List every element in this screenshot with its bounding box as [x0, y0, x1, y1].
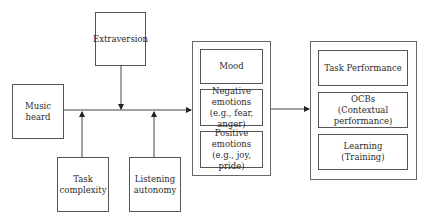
- music-heard-box: Music heard: [12, 84, 64, 139]
- task-performance-box: Task Performance: [318, 50, 408, 86]
- task-complexity-box: Task complexity: [57, 157, 109, 212]
- positive-emotions-label: Positive emotions (e.g., joy, pride): [203, 128, 260, 172]
- mood-label: Mood: [219, 61, 243, 72]
- learning-box: Learning (Training): [318, 134, 408, 170]
- negative-emotions-label: Negative emotions (e.g., fear, anger): [203, 86, 260, 130]
- music-heard-label: Music heard: [15, 101, 61, 123]
- negative-emotions-box: Negative emotions (e.g., fear, anger): [200, 89, 263, 126]
- task-performance-label: Task Performance: [324, 63, 401, 74]
- task-complexity-label: Task complexity: [60, 174, 107, 196]
- positive-emotions-box: Positive emotions (e.g., joy, pride): [200, 131, 263, 168]
- extraversion-box: Extraversion: [95, 12, 146, 66]
- listening-autonomy-label: Listening autonomy: [134, 174, 177, 196]
- mood-box: Mood: [200, 49, 263, 84]
- extraversion-label: Extraversion: [93, 34, 148, 45]
- ocbs-label: OCBs (Contextual performance): [321, 94, 405, 127]
- learning-label: Learning (Training): [341, 141, 384, 163]
- listening-autonomy-box: Listening autonomy: [129, 157, 181, 212]
- ocbs-box: OCBs (Contextual performance): [318, 92, 408, 128]
